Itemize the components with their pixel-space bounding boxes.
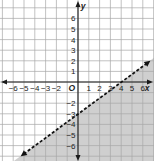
x-axis-left-arrow-icon xyxy=(1,80,7,85)
y-tick-label: 5 xyxy=(71,25,76,34)
x-tick-label: 1 xyxy=(87,84,92,93)
y-tick-label: −2 xyxy=(66,99,76,108)
y-tick-label: 3 xyxy=(71,46,76,55)
y-tick-label: 1 xyxy=(71,67,76,76)
x-tick-label: −3 xyxy=(41,84,51,93)
x-tick-label: −5 xyxy=(19,84,29,93)
x-tick-label: 3 xyxy=(108,84,113,93)
y-tick-label: −6 xyxy=(66,142,76,151)
y-tick-label: 4 xyxy=(71,36,76,45)
x-tick-label: −4 xyxy=(30,84,40,93)
x-tick-label: 4 xyxy=(119,84,124,93)
x-tick-label: −2 xyxy=(52,84,62,93)
x-tick-label: 2 xyxy=(97,84,102,93)
y-tick-label: −5 xyxy=(66,131,76,140)
coordinate-graph: −6−5−4−3−2123456654321−2−3−4−5−6Oxy xyxy=(0,0,154,161)
origin-label: O xyxy=(68,83,75,93)
x-tick-label: 5 xyxy=(130,84,135,93)
y-tick-label: −3 xyxy=(66,110,76,119)
y-tick-label: 6 xyxy=(71,14,76,23)
x-tick-label: −6 xyxy=(9,84,19,93)
y-axis-label: y xyxy=(80,1,87,11)
y-tick-label: −4 xyxy=(66,120,76,129)
y-tick-label: 2 xyxy=(71,57,76,66)
